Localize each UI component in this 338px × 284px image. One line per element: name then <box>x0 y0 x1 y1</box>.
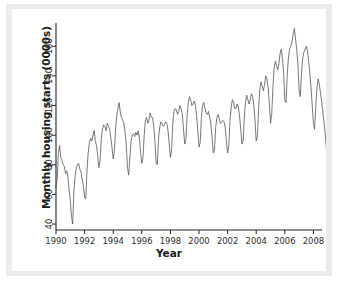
y-tick-label: 140 <box>44 68 54 84</box>
line-chart-svg: 406080100120140160 199019921994199619982… <box>12 9 326 271</box>
x-tick-label: 2006 <box>274 236 295 246</box>
chart-plot-wrapper: Monthly housing starts (0000s) 406080100… <box>12 9 326 271</box>
x-tick-label: 1996 <box>131 236 152 246</box>
y-axis-ticks-group: 406080100120140160 <box>44 38 56 229</box>
x-tick-label: 2002 <box>217 236 238 246</box>
series-line <box>56 28 326 224</box>
y-tick-label: 40 <box>44 219 54 230</box>
x-axis-ticks-group: 1990199219941996199820002002200420062008 <box>45 230 324 246</box>
y-tick-label: 160 <box>44 38 54 54</box>
y-tick-label: 100 <box>44 127 54 143</box>
x-tick-label: 1990 <box>45 236 66 246</box>
x-tick-label: 1992 <box>74 236 95 246</box>
y-tick-label: 60 <box>44 189 54 200</box>
y-tick-label: 120 <box>44 98 54 114</box>
data-series-group <box>56 28 326 224</box>
x-tick-label: 1994 <box>103 236 124 246</box>
screenshot-root: Monthly housing starts (0000s) 406080100… <box>0 0 338 284</box>
x-tick-label: 2000 <box>188 236 209 246</box>
x-tick-label: 2004 <box>246 236 267 246</box>
chart-card: Monthly housing starts (0000s) 406080100… <box>12 9 326 271</box>
y-tick-label: 80 <box>44 159 54 170</box>
x-axis-label: Year <box>12 247 326 259</box>
x-tick-label: 1998 <box>160 236 181 246</box>
x-tick-label: 2008 <box>303 236 324 246</box>
